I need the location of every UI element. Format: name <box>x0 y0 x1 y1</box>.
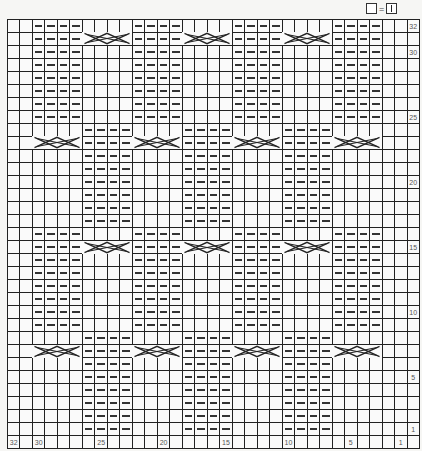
purl-stitch-cell <box>358 319 370 332</box>
knit-stitch-cell <box>358 410 370 423</box>
purl-stitch-cell <box>270 228 282 241</box>
purl-stitch-cell <box>370 241 382 254</box>
knit-stitch-cell <box>283 293 295 306</box>
purl-stitch-cell <box>233 20 245 33</box>
purl-stitch-cell <box>158 85 170 98</box>
purl-stitch-cell <box>70 59 82 72</box>
knit-stitch-cell <box>220 59 232 72</box>
purl-stitch-cell <box>233 111 245 124</box>
knit-stitch-cell <box>383 319 395 332</box>
purl-stitch-cell <box>183 397 195 410</box>
knit-stitch-cell <box>395 384 407 397</box>
purl-stitch-cell <box>45 20 57 33</box>
knit-stitch-cell <box>308 306 320 319</box>
stitch-number-label <box>358 436 370 449</box>
knit-stitch-cell <box>20 46 32 59</box>
purl-stitch-cell <box>333 72 345 85</box>
purl-stitch-cell <box>233 98 245 111</box>
purl-stitch-cell <box>83 384 95 397</box>
knit-stitch-cell <box>345 124 357 137</box>
purl-stitch-cell <box>195 163 207 176</box>
stitch-number-label <box>83 436 95 449</box>
knit-stitch-cell <box>8 397 20 410</box>
purl-stitch-cell <box>333 241 345 254</box>
purl-stitch-cell <box>95 332 107 345</box>
purl-stitch-cell <box>33 254 45 267</box>
purl-stitch-cell <box>108 371 120 384</box>
purl-stitch-cell <box>108 202 120 215</box>
purl-stitch-cell <box>58 267 70 280</box>
purl-stitch-cell <box>220 358 232 371</box>
knit-stitch-cell <box>45 332 57 345</box>
cable-stitch-cell <box>170 137 182 150</box>
purl-stitch-cell <box>70 20 82 33</box>
cable-stitch-cell <box>333 137 345 150</box>
purl-stitch-cell <box>83 397 95 410</box>
purl-stitch-cell <box>120 371 132 384</box>
row-number-label <box>408 215 420 228</box>
knit-stitch-cell <box>45 189 57 202</box>
purl-stitch-cell <box>158 59 170 72</box>
knit-stitch-cell <box>83 254 95 267</box>
purl-stitch-cell <box>320 163 332 176</box>
purl-stitch-cell <box>220 410 232 423</box>
row-number-label <box>408 293 420 306</box>
purl-stitch-cell <box>58 319 70 332</box>
purl-stitch-cell <box>58 241 70 254</box>
knit-stitch-cell <box>233 176 245 189</box>
knit-stitch-cell <box>395 20 407 33</box>
knit-stitch-cell <box>208 280 220 293</box>
purl-stitch-cell <box>45 254 57 267</box>
knit-stitch-cell <box>395 254 407 267</box>
knit-stitch-cell <box>233 397 245 410</box>
knit-stitch-cell <box>320 59 332 72</box>
knit-stitch-cell <box>270 150 282 163</box>
row-number-label: 1 <box>408 423 420 436</box>
knit-stitch-cell <box>108 319 120 332</box>
knit-stitch-cell <box>320 280 332 293</box>
purl-stitch-cell <box>208 124 220 137</box>
knit-stitch-cell <box>395 371 407 384</box>
purl-stitch-cell <box>208 410 220 423</box>
knit-stitch-cell <box>270 163 282 176</box>
purl-stitch-cell <box>233 228 245 241</box>
purl-stitch-cell <box>33 59 45 72</box>
knit-stitch-cell <box>395 124 407 137</box>
purl-stitch-cell <box>195 423 207 436</box>
purl-stitch-cell <box>233 280 245 293</box>
knit-stitch-cell <box>145 202 157 215</box>
cable-stitch-cell <box>258 345 270 358</box>
cable-stitch-cell <box>320 33 332 46</box>
cable-stitch-cell <box>283 241 295 254</box>
row-number-label <box>408 85 420 98</box>
purl-stitch-cell <box>358 228 370 241</box>
purl-stitch-cell <box>308 176 320 189</box>
knit-stitch-cell <box>195 267 207 280</box>
knit-stitch-cell <box>358 124 370 137</box>
purl-stitch-cell <box>95 384 107 397</box>
knit-stitch-cell <box>170 332 182 345</box>
purl-stitch-cell <box>208 371 220 384</box>
purl-stitch-cell <box>195 410 207 423</box>
stitch-number-label <box>120 436 132 449</box>
knit-stitch-cell <box>283 267 295 280</box>
purl-stitch-cell <box>283 423 295 436</box>
knit-stitch-cell <box>358 215 370 228</box>
knit-stitch-cell <box>108 85 120 98</box>
knit-stitch-cell <box>33 150 45 163</box>
knit-stitch-cell <box>258 371 270 384</box>
knit-stitch-cell <box>383 72 395 85</box>
purl-stitch-cell <box>133 33 145 46</box>
knit-stitch-cell <box>120 293 132 306</box>
purl-stitch-cell <box>183 176 195 189</box>
purl-stitch-cell <box>233 33 245 46</box>
purl-stitch-cell <box>295 189 307 202</box>
knit-stitch-cell <box>295 319 307 332</box>
knit-stitch-cell <box>195 280 207 293</box>
knit-stitch-cell <box>8 267 20 280</box>
knit-stitch-cell <box>133 150 145 163</box>
purl-stitch-cell <box>133 72 145 85</box>
knit-stitch-cell <box>283 254 295 267</box>
purl-stitch-cell <box>195 215 207 228</box>
knit-stitch-cell <box>320 267 332 280</box>
